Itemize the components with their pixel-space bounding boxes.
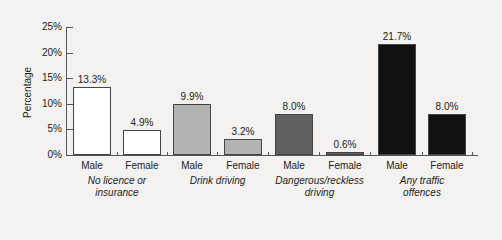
sex-label: Female	[422, 160, 472, 171]
bar-value-label: 13.3%	[67, 74, 117, 85]
sex-label: Male	[67, 160, 117, 171]
bar-value-label: 3.2%	[218, 126, 268, 137]
y-tick-label: 10%	[22, 98, 62, 109]
x-tick	[319, 152, 320, 156]
bar-value-label: 4.9%	[117, 117, 167, 128]
y-tick	[66, 53, 73, 54]
x-tick	[217, 152, 218, 156]
category-label: Any trafficoffences	[367, 175, 477, 199]
bar-value-label: 8.0%	[269, 101, 319, 112]
x-tick	[268, 152, 269, 156]
bar	[123, 130, 161, 155]
bar-value-label: 9.9%	[167, 91, 217, 102]
category-label: Dangerous/recklessdriving	[265, 175, 375, 199]
y-axis-line	[66, 27, 67, 155]
y-tick-label: 25%	[22, 21, 62, 32]
bar	[378, 44, 416, 155]
category-label: Drink driving	[163, 175, 273, 187]
sex-label: Female	[320, 160, 370, 171]
category-label: No licence orinsurance	[62, 175, 172, 199]
bar	[326, 152, 364, 155]
bar	[275, 114, 313, 155]
x-tick	[167, 152, 168, 156]
x-tick	[472, 152, 473, 156]
sex-label: Female	[117, 160, 167, 171]
y-tick	[66, 129, 73, 130]
y-tick	[66, 104, 73, 105]
sex-label: Female	[218, 160, 268, 171]
y-tick-label: 15%	[22, 72, 62, 83]
y-tick-label: 20%	[22, 47, 62, 58]
bar	[224, 139, 262, 155]
bar	[428, 114, 466, 155]
y-tick-label: 5%	[22, 123, 62, 134]
y-tick	[66, 155, 73, 156]
x-axis-line	[66, 155, 478, 156]
sex-label: Male	[167, 160, 217, 171]
y-tick-label: 0%	[22, 149, 62, 160]
x-tick	[117, 152, 118, 156]
bar	[73, 87, 111, 155]
bar-value-label: 21.7%	[372, 31, 422, 42]
x-tick	[370, 152, 371, 156]
y-tick	[66, 27, 73, 28]
sex-label: Male	[372, 160, 422, 171]
bar-value-label: 8.0%	[422, 101, 472, 112]
x-tick	[422, 152, 423, 156]
sex-label: Male	[269, 160, 319, 171]
bar-value-label: 0.6%	[320, 139, 370, 150]
bar	[173, 104, 211, 155]
